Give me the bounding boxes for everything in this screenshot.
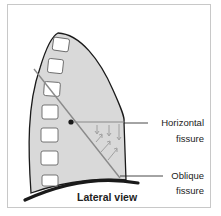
oblique-fissure-label: Oblique fissure <box>150 170 204 197</box>
diagram-caption: Lateral view <box>77 191 137 203</box>
horizontal-fissure-label: Horizontal fissure <box>150 117 204 145</box>
hilum-dot <box>68 119 73 124</box>
